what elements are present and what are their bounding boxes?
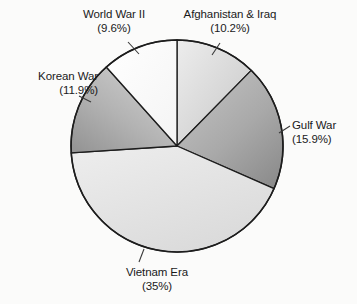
pie-label-korean-war-name: Korean War <box>2 70 98 84</box>
pie-label-world-war-ii-name: World War II <box>62 8 166 22</box>
pie-label-vietnam-era: Vietnam Era (35%) <box>104 266 210 293</box>
pie-label-gulf-war: Gulf War (15.9%) <box>292 119 354 146</box>
pie-label-gulf-war-name: Gulf War <box>292 119 354 133</box>
pie-label-afghanistan-iraq-percent: (10.2%) <box>168 22 292 36</box>
pie-label-gulf-war-percent: (15.9%) <box>292 133 354 147</box>
pie-label-afghanistan-iraq-name: Afghanistan & Iraq <box>168 8 292 22</box>
pie-label-afghanistan-iraq: Afghanistan & Iraq (10.2%) <box>168 8 292 35</box>
pie-slices-group <box>71 40 283 252</box>
pie-label-vietnam-era-percent: (35%) <box>104 280 210 294</box>
chart-page: World War II (9.6%) Afghanistan & Iraq (… <box>0 0 357 304</box>
pie-label-world-war-ii-percent: (9.6%) <box>62 22 166 36</box>
pie-label-korean-war: Korean War (11.9%) <box>2 70 98 97</box>
pie-chart-figure <box>0 0 357 304</box>
leader-line-vietnam-era <box>139 249 144 262</box>
pie-label-vietnam-era-name: Vietnam Era <box>104 266 210 280</box>
pie-label-korean-war-percent: (11.9%) <box>2 84 98 98</box>
pie-label-world-war-ii: World War II (9.6%) <box>62 8 166 35</box>
